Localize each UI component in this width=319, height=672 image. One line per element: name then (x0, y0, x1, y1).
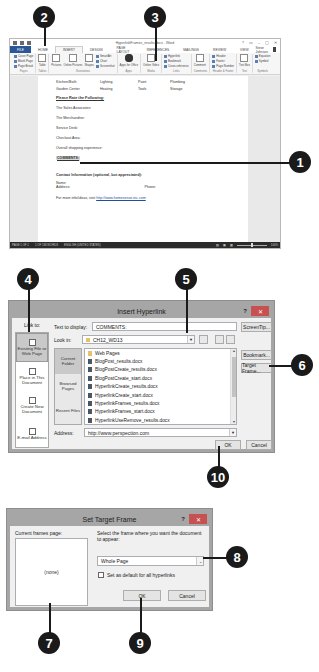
tab-review[interactable]: REVIEW (206, 46, 233, 53)
blank-page-button[interactable]: Blank Page (14, 59, 33, 63)
frames-preview[interactable]: (none) (15, 538, 88, 606)
tab-design[interactable]: DESIGN (83, 46, 110, 53)
frame-select[interactable]: Whole Page ⌄ (97, 556, 204, 566)
help-button[interactable]: ? (181, 516, 185, 522)
list-item[interactable]: BlogPostCreate_results.docx (85, 366, 236, 374)
browse-web-icon[interactable] (215, 335, 224, 344)
web-layout-icon[interactable]: ▦ (230, 243, 233, 247)
text-to-display-input[interactable]: COMMENTS: (92, 322, 237, 331)
hyperlink-button[interactable]: Hyperlink (164, 54, 189, 58)
user-account[interactable]: Steve Johnson (256, 46, 280, 54)
link-to-place-in-document[interactable]: Place in This Document (16, 362, 48, 391)
print-layout-icon[interactable]: ▣ (223, 243, 226, 247)
scroll-down-icon[interactable]: ▼ (231, 420, 237, 424)
bookmark-button[interactable]: Bookmark... (241, 350, 272, 360)
up-folder-icon[interactable] (199, 335, 208, 344)
chevron-down-icon[interactable]: ⌄ (196, 557, 203, 565)
header-button[interactable]: Header (212, 54, 234, 58)
pictures-button[interactable]: Pictures (51, 54, 61, 67)
text-box-button[interactable]: Text Box (239, 54, 250, 67)
list-item[interactable]: HyperlinkUseRemove_results.docx (85, 416, 236, 424)
link-to-label-text: Place in This Document (16, 376, 48, 386)
smartart-button[interactable]: SmartArt (96, 54, 115, 58)
page-break-button[interactable]: Page Break (14, 64, 33, 68)
selected-comments-text[interactable]: COMMENTS: (56, 156, 80, 160)
close-button[interactable]: ✕ (189, 514, 207, 524)
callout-3: 3 (144, 6, 166, 28)
browse-file-icon[interactable] (226, 335, 235, 344)
table-button[interactable]: Table (38, 54, 46, 67)
tab-insert[interactable]: INSERT (55, 46, 83, 53)
list-item[interactable]: HyperlinkFrames_start.docx (85, 408, 236, 416)
help-button[interactable]: ? (243, 308, 247, 314)
cancel-button[interactable]: Cancel (246, 440, 272, 450)
default-checkbox-label[interactable]: Set as default for all hyperlinks (107, 572, 175, 578)
cross-reference-button[interactable]: Cross-reference (164, 64, 189, 68)
list-item[interactable]: HyperlinkCreate_start.docx (85, 391, 236, 399)
browsed-pages-tab[interactable]: Browsed Pages (55, 374, 81, 399)
file-name: BlogPostCreate_start.docx (95, 376, 152, 381)
tab-references[interactable]: REFERENCES (140, 46, 177, 53)
address-input[interactable]: http://www.perspection.com ▼ (84, 428, 237, 437)
word-doc-icon (88, 393, 92, 398)
tab-home[interactable]: HOME (31, 46, 55, 53)
page-count[interactable]: PAGE 1 OF 1 (12, 243, 29, 247)
shapes-button[interactable]: Shapes (84, 54, 94, 67)
tab-mailings[interactable]: MAILINGS (176, 46, 206, 53)
text-box-label: Text Box (239, 63, 250, 67)
scroll-up-icon[interactable]: ▲ (231, 349, 237, 353)
chart-button[interactable]: Chart (96, 59, 115, 63)
ok-button[interactable]: OK (123, 590, 161, 601)
zoom-slider[interactable] (237, 245, 267, 246)
email-icon (29, 428, 36, 435)
look-in-dropdown[interactable]: CH12_WD13 ▼ (82, 335, 195, 344)
bookmark-button[interactable]: Bookmark (164, 59, 189, 63)
language[interactable]: ENGLISH (UNITED STATES) (64, 243, 101, 247)
apps-for-office-button[interactable]: Apps for Office (120, 54, 138, 67)
word-count[interactable]: 1 OF 138 WORDS (35, 243, 58, 247)
list-item[interactable]: HyperlinkCreate_results.docx (85, 383, 236, 391)
online-pictures-button[interactable]: Online Pictures (63, 54, 82, 67)
comment-button[interactable]: Comment (194, 54, 206, 67)
department-row: Kitchen/Bath Lighting Paint Plumbing (56, 80, 230, 84)
list-item[interactable]: BlogPostCreate_start.docx (85, 374, 236, 382)
symbol-button[interactable]: Symbol (255, 59, 270, 63)
equation-button[interactable]: Equation (255, 54, 270, 58)
file-list-scrollbar[interactable]: ▲ ▼ (230, 349, 236, 424)
list-item[interactable]: BlogPost_results.docx (85, 357, 236, 365)
tab-view[interactable]: VIEW (233, 46, 255, 53)
tab-file[interactable]: FILE (10, 46, 31, 53)
link-to-email-address[interactable]: E-mail Address (16, 420, 48, 449)
recent-files-tab[interactable]: Recent Files (55, 399, 81, 424)
tab-page-layout[interactable]: PAGE LAYOUT (110, 46, 140, 53)
zoom-level[interactable]: 100% (271, 243, 278, 247)
target-frame-button[interactable]: Target Frame... (241, 363, 272, 373)
cover-page-button[interactable]: Cover Page (14, 54, 33, 58)
list-item[interactable]: HyperlinkFrames_results.docx (85, 399, 236, 407)
current-folder-tab[interactable]: Current Folder (55, 349, 81, 374)
group-symbols: Equation Symbol Symbols (253, 54, 272, 73)
default-checkbox[interactable] (98, 572, 104, 578)
group-label: Header & Footer (212, 69, 234, 73)
screentip-button[interactable]: ScreenTip... (241, 322, 272, 332)
department-row: Garden Center Heating Tools Storage (56, 87, 230, 91)
scroll-thumb[interactable] (232, 357, 236, 397)
chevron-down-icon[interactable]: ▼ (229, 429, 236, 436)
screenshot-button[interactable]: Screenshot (96, 64, 115, 68)
pictures-icon (52, 54, 60, 62)
link-to-create-new-document[interactable]: Create New Document (16, 391, 48, 420)
page-number-button[interactable]: Page Number (212, 64, 234, 68)
group-label: Comments (194, 69, 208, 73)
close-button[interactable]: ✕ (251, 306, 269, 316)
read-mode-icon[interactable]: ▤ (216, 243, 219, 247)
group-label: Text (239, 69, 250, 73)
footer-button[interactable]: Footer (212, 59, 234, 63)
more-info-link[interactable]: http://www.homesense.inc.com (96, 196, 146, 200)
list-item[interactable]: Web Pages (85, 349, 236, 357)
cancel-button[interactable]: Cancel (168, 590, 206, 601)
document-page[interactable]: Kitchen/Bath Lighting Paint Plumbing Gar… (38, 76, 248, 242)
link-to-existing-file[interactable]: Existing File or Web Page (16, 333, 48, 362)
chevron-down-icon[interactable]: ▼ (187, 336, 194, 343)
file-name: HyperlinkCreate_start.docx (95, 393, 153, 398)
online-video-button[interactable]: Online Video (143, 54, 159, 67)
